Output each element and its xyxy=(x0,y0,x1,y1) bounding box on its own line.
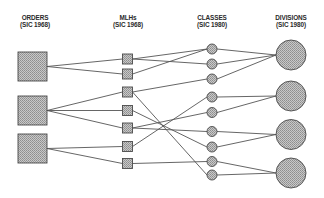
orders-node-O2 xyxy=(18,96,47,125)
divisions-node-D3 xyxy=(276,120,306,150)
classification-diagram xyxy=(0,0,324,198)
mlhs-node-M1 xyxy=(123,54,133,64)
edge-O2-M5 xyxy=(47,111,123,129)
classes-node-C4 xyxy=(207,92,217,102)
orders-node-O3 xyxy=(18,134,47,163)
edge-C9-D4 xyxy=(217,173,276,175)
mlhs-node-M3 xyxy=(123,87,133,97)
classes-node-C6 xyxy=(207,127,217,137)
edge-M1-C1 xyxy=(133,49,208,59)
divisions-node-D1 xyxy=(276,40,306,70)
orders-node-O1 xyxy=(18,52,47,81)
edge-O3-M6 xyxy=(47,147,123,149)
edge-O1-M1 xyxy=(47,59,123,67)
edge-C4-D2 xyxy=(217,96,276,97)
edge-O1-M2 xyxy=(47,67,123,75)
mlhs-node-M2 xyxy=(123,69,133,79)
edge-M3-C3 xyxy=(133,79,208,92)
classes-node-C3 xyxy=(207,74,217,84)
edge-C8-D4 xyxy=(217,162,276,174)
edges-layer xyxy=(47,49,276,175)
edge-O2-M3 xyxy=(47,92,123,111)
classes-node-C1 xyxy=(207,44,217,54)
edge-C3-D1 xyxy=(217,55,276,79)
divisions-node-D4 xyxy=(276,158,306,188)
mlhs-node-M6 xyxy=(123,142,133,152)
edge-C5-D2 xyxy=(217,96,276,113)
divisions-node-D2 xyxy=(276,81,306,111)
mlhs-node-M7 xyxy=(123,159,133,169)
classes-node-C8 xyxy=(207,157,217,167)
edge-M5-C5 xyxy=(133,113,208,129)
mlhs-node-M5 xyxy=(123,123,133,133)
edge-C2-D1 xyxy=(217,55,276,64)
classes-node-C9 xyxy=(207,170,217,180)
edge-C1-D1 xyxy=(217,49,276,55)
edge-C7-D3 xyxy=(217,135,276,148)
mlhs-node-M4 xyxy=(123,106,133,116)
classes-node-C7 xyxy=(207,142,217,152)
classes-node-C5 xyxy=(207,108,217,118)
edge-M2-C1 xyxy=(133,49,208,74)
edge-O3-M7 xyxy=(47,149,123,164)
edge-C6-D3 xyxy=(217,132,276,135)
classes-node-C2 xyxy=(207,59,217,69)
